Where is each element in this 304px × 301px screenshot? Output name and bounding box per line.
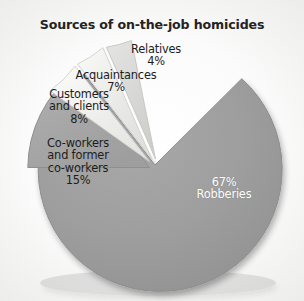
pie-chart-figure: Sources of on-the-job homicides <box>0 0 304 301</box>
pie-plot-area: Relatives 4% Acquaintances 7% Customers … <box>0 0 304 301</box>
pie-svg <box>0 0 304 301</box>
